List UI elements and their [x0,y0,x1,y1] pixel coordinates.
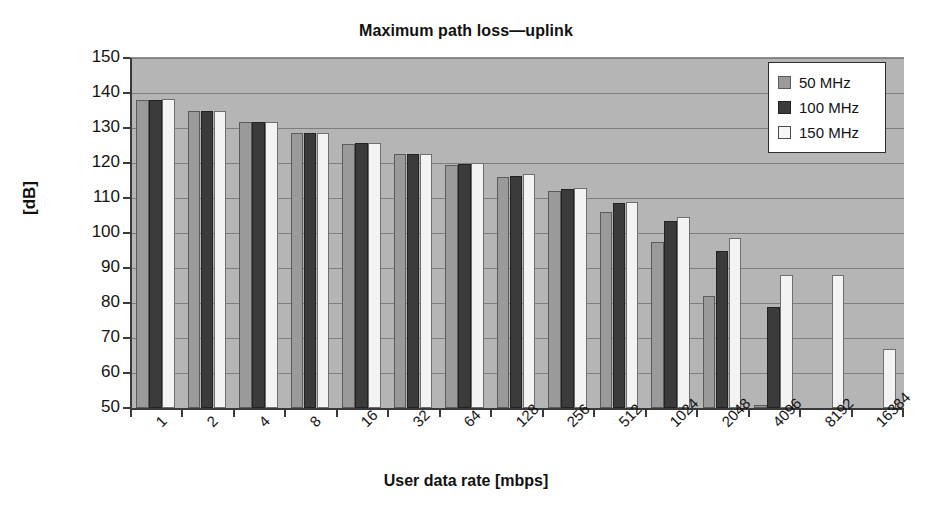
y-tick-mark [123,302,130,304]
y-tick-mark [123,267,130,269]
bar [832,275,845,408]
y-tick-label: 110 [60,187,120,207]
bar [626,202,639,409]
legend-item[interactable]: 50 MHz [778,70,877,95]
bar [342,144,355,408]
bar [188,111,201,409]
bar [677,217,690,408]
bar [149,100,162,408]
x-tick-mark [542,410,544,417]
bar [162,99,175,408]
x-tick-mark [233,410,235,417]
bar [754,405,767,409]
bar [716,251,729,409]
bar [729,238,742,408]
y-tick-label: 70 [60,327,120,347]
x-tick-mark [490,410,492,417]
y-tick-mark [123,337,130,339]
gridline [132,58,904,59]
bar [548,191,561,408]
y-tick-mark [123,57,130,59]
x-tick-mark [284,410,286,417]
x-tick-mark [439,410,441,417]
y-tick-label: 140 [60,82,120,102]
bar [613,203,626,408]
bar [780,275,793,408]
bar [664,221,677,408]
y-tick-label: 100 [60,222,120,242]
x-tick-mark [387,410,389,417]
bar [214,111,227,409]
bar [767,307,780,409]
bar [317,133,330,408]
bar [471,163,484,408]
bar [510,176,523,408]
x-tick-label: 2 [203,412,221,430]
y-tick-label: 50 [60,397,120,417]
legend-swatch-icon [778,126,791,139]
bar [304,133,317,408]
x-tick-mark [645,410,647,417]
y-tick-label: 90 [60,257,120,277]
bar [445,165,458,408]
legend-swatch-icon [778,101,791,114]
chart-figure: Maximum path loss—uplink [dB] 1501401301… [0,0,932,508]
legend-item[interactable]: 150 MHz [778,120,877,145]
x-tick-label: 4 [255,412,273,430]
x-tick-mark [593,410,595,417]
y-tick-label: 60 [60,362,120,382]
y-tick-mark [123,232,130,234]
y-axis-label: [dB] [20,181,40,215]
bar [239,122,252,408]
bar [703,296,716,408]
legend-item[interactable]: 100 MHz [778,95,877,120]
chart-title: Maximum path loss—uplink [0,22,932,40]
y-tick-mark [123,372,130,374]
y-tick-label: 150 [60,47,120,67]
x-tick-mark [130,410,132,417]
y-tick-mark [123,162,130,164]
y-tick-mark [123,407,130,409]
bar [368,143,381,408]
bar [252,122,265,408]
bar [497,177,510,408]
bar [407,154,420,408]
bar [136,100,149,408]
y-tick-mark [123,127,130,129]
bar [201,111,214,409]
x-tick-label: 1 [152,412,170,430]
legend-label: 150 MHz [799,124,859,141]
bar [574,188,587,409]
chart-legend: 50 MHz100 MHz150 MHz [768,62,886,153]
x-tick-mark [181,410,183,417]
y-tick-label: 120 [60,152,120,172]
x-tick-mark [336,410,338,417]
bar [561,189,574,408]
bar [651,242,664,408]
legend-swatch-icon [778,76,791,89]
bar [265,122,278,408]
bar [291,133,304,408]
x-tick-label: 8 [306,412,324,430]
bar [394,154,407,408]
y-tick-mark [123,197,130,199]
bar [355,143,368,408]
bar [458,164,471,408]
y-tick-mark [123,92,130,94]
legend-label: 100 MHz [799,99,859,116]
x-axis-label: User data rate [mbps] [0,472,932,490]
bar [523,174,536,409]
y-tick-label: 80 [60,292,120,312]
bar [600,212,613,408]
bar [420,154,433,408]
y-tick-label: 130 [60,117,120,137]
legend-label: 50 MHz [799,74,851,91]
